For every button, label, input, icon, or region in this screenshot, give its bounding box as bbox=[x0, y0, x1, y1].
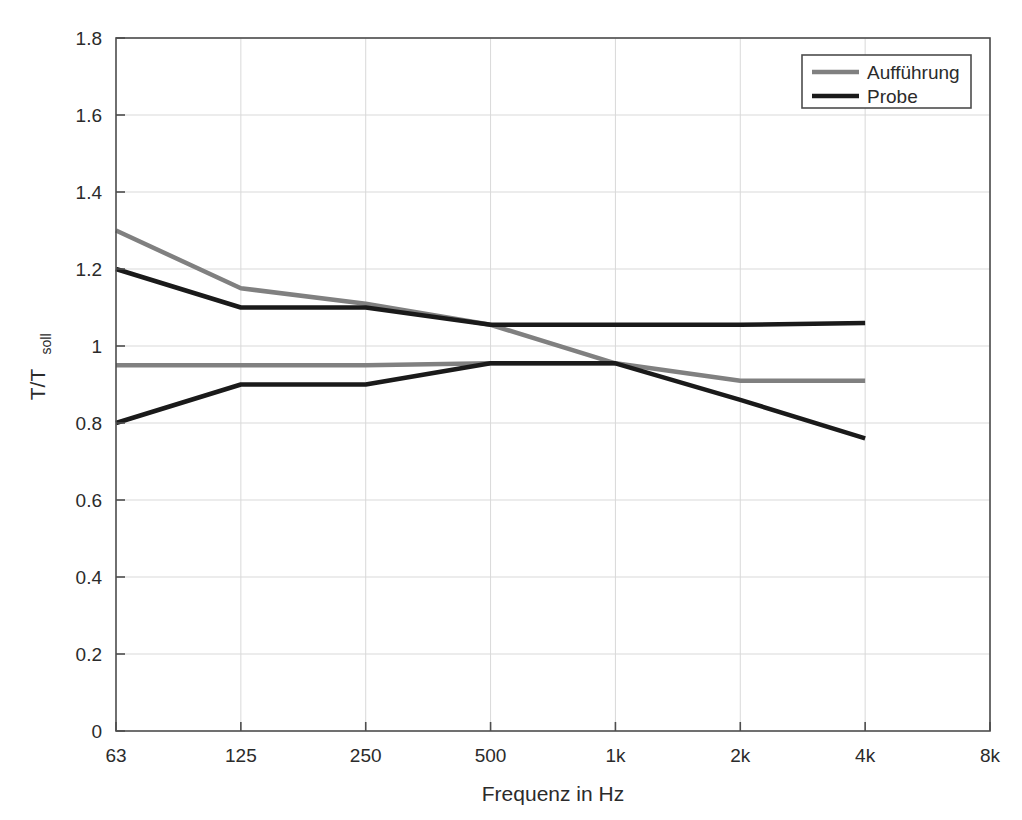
x-tick-label: 125 bbox=[225, 745, 257, 766]
figure-container: 00.20.40.60.811.21.41.61.8631252505001k2… bbox=[0, 0, 1022, 820]
y-tick-label: 1.4 bbox=[76, 182, 103, 203]
y-tick-label: 1.6 bbox=[76, 105, 102, 126]
y-tick-label: 0.8 bbox=[76, 413, 102, 434]
y-tick-label: 0 bbox=[91, 721, 102, 742]
x-tick-label: 63 bbox=[105, 745, 126, 766]
legend-label-probe: Probe bbox=[867, 86, 918, 107]
y-axis-title: T/T bbox=[26, 369, 49, 401]
y-tick-label: 1.2 bbox=[76, 259, 102, 280]
y-tick-label: 1.8 bbox=[76, 28, 102, 49]
line-chart: 00.20.40.60.811.21.41.61.8631252505001k2… bbox=[0, 0, 1022, 820]
y-tick-label: 1 bbox=[91, 336, 102, 357]
y-axis-title-subscript: soll bbox=[38, 333, 54, 354]
y-tick-label: 0.4 bbox=[76, 567, 103, 588]
chart-legend[interactable]: AufführungProbe bbox=[802, 55, 971, 108]
x-tick-label: 2k bbox=[730, 745, 751, 766]
x-tick-label: 4k bbox=[855, 745, 876, 766]
y-tick-label: 0.2 bbox=[76, 644, 102, 665]
y-tick-label: 0.6 bbox=[76, 490, 102, 511]
x-axis-title: Frequenz in Hz bbox=[482, 782, 624, 805]
x-tick-label: 8k bbox=[980, 745, 1001, 766]
x-tick-label: 500 bbox=[475, 745, 507, 766]
legend-label-auffuehrung: Aufführung bbox=[867, 62, 960, 83]
x-tick-label: 250 bbox=[350, 745, 382, 766]
x-tick-label: 1k bbox=[605, 745, 626, 766]
